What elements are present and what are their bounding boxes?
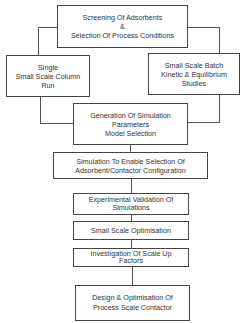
node-batch-studies: Small Scale Batch Kinetic & Equilibrium … <box>148 53 240 95</box>
node-validation-line-2: Simulations <box>112 204 149 212</box>
node-batch-studies-line-3: Studies <box>182 79 206 88</box>
node-generation-line-2: Parameters <box>112 120 149 129</box>
node-single-column-line-1: Single <box>38 63 58 72</box>
node-validation: Experimental Validation Of Simulations <box>73 193 189 215</box>
node-screening: Screening Of Adsorbents & Selection Of P… <box>57 5 188 48</box>
connector-batch-down <box>219 95 220 122</box>
node-scale-up-line-2: Factors <box>119 257 143 264</box>
connector-simulation-validation <box>131 179 132 193</box>
connector-scaleup-design <box>132 267 133 285</box>
connector-generation-simulation <box>130 145 131 152</box>
node-single-column-line-2: Small Scale Column <box>16 72 81 81</box>
connector-optimisation-scaleup <box>131 240 132 248</box>
node-optimisation: Small Scale Optimisation <box>73 221 189 240</box>
node-simulation-line-1: Simulation To Enable Selection Of <box>76 157 185 166</box>
connector-single-right <box>40 123 73 124</box>
node-design-line-2: Process Scale Contactor <box>93 303 172 313</box>
node-batch-studies-line-1: Small Scale Batch <box>165 61 223 70</box>
node-generation: Generation Of Simulation Parameters Mode… <box>73 103 188 145</box>
connector-batch-left <box>188 122 220 123</box>
node-batch-studies-line-2: Kinetic & Equilibrium <box>161 70 227 79</box>
node-screening-line-3: Selection Of Process Conditions <box>71 31 174 40</box>
node-screening-line-2: & <box>120 22 125 31</box>
node-generation-line-3: Model Selection <box>105 129 156 138</box>
node-design-line-1: Design & Optimisation Of <box>92 293 173 303</box>
node-optimisation-line-1: Small Scale Optimisation <box>91 226 171 235</box>
connector-screening-left <box>38 27 57 28</box>
node-simulation: Simulation To Enable Selection Of Adsorb… <box>53 152 208 179</box>
connector-screening-right-down <box>219 27 220 53</box>
node-single-column: Single Small Scale Column Run <box>6 55 90 97</box>
node-single-column-line-3: Run <box>41 81 54 90</box>
connector-screening-left-down <box>38 27 39 55</box>
node-simulation-line-2: Adsorbent/Contactor Configuration <box>75 166 186 175</box>
node-scale-up: Investigation Of Scale Up Factors <box>73 248 189 267</box>
node-generation-line-1: Generation Of Simulation <box>90 111 171 120</box>
node-screening-line-1: Screening Of Adsorbents <box>83 13 163 22</box>
connector-screening-right <box>188 27 219 28</box>
node-design: Design & Optimisation Of Process Scale C… <box>75 285 190 321</box>
connector-single-down <box>40 97 41 123</box>
